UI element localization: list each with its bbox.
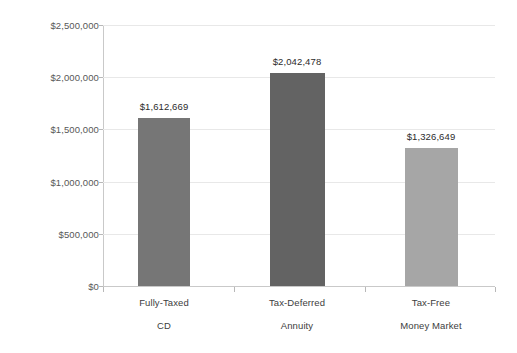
x-axis-line [103, 286, 495, 287]
x-tick-mark [365, 287, 366, 292]
y-tick-label: $2,000,000 [7, 72, 99, 83]
bar-tax-free-money-market [405, 148, 458, 287]
data-label-fully-taxed-cd: $1,612,669 [140, 101, 189, 112]
y-tick-label: $500,000 [7, 229, 99, 240]
x-label-tax-deferred: Tax-Deferred [269, 297, 325, 308]
y-tick-label: $0 [7, 281, 99, 292]
data-label-tax-deferred-annuity: $2,042,478 [273, 56, 322, 67]
gridline [103, 25, 495, 26]
y-tick-label: $2,500,000 [7, 20, 99, 31]
x-label-tax-free: Tax-Free [412, 297, 450, 308]
data-label-tax-free-money-market: $1,326,649 [407, 131, 456, 142]
bar-fully-taxed-cd [138, 118, 190, 286]
x-tick-mark [103, 287, 104, 292]
bar-chart: $2,500,000 $2,000,000 $1,500,000 $1,000,… [0, 0, 517, 353]
x-tick-mark [495, 287, 496, 292]
x-label-money-market: Money Market [400, 320, 461, 331]
y-tick-label: $1,000,000 [7, 177, 99, 188]
x-label-cd: CD [157, 320, 171, 331]
x-tick-mark [234, 287, 235, 292]
x-label-annuity: Annuity [281, 320, 313, 331]
y-axis: $2,500,000 $2,000,000 $1,500,000 $1,000,… [0, 0, 99, 353]
bar-tax-deferred-annuity [270, 73, 325, 286]
x-label-fully-taxed: Fully-Taxed [139, 297, 189, 308]
y-tick-label: $1,500,000 [7, 124, 99, 135]
